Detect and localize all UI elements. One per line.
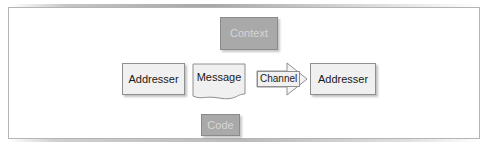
- node-context-label: Context: [230, 28, 268, 39]
- node-code-label: Code: [207, 120, 233, 131]
- node-addresser-right[interactable]: Addresser: [310, 63, 376, 95]
- node-addresser-right-label: Addresser: [318, 74, 368, 85]
- node-channel-label: Channel: [257, 71, 300, 88]
- node-message[interactable]: Message: [192, 63, 246, 103]
- node-channel[interactable]: Channel: [256, 61, 308, 97]
- document-shape-icon: [192, 63, 246, 103]
- node-addresser-left[interactable]: Addresser: [122, 63, 185, 95]
- diagram-canvas: Context Addresser Message Channel Addres…: [0, 0, 495, 148]
- node-message-label: Message: [197, 72, 242, 83]
- frame-bottom-shadow: [8, 139, 482, 142]
- node-context[interactable]: Context: [220, 17, 278, 50]
- node-code[interactable]: Code: [201, 114, 240, 136]
- diagram-frame: Context Addresser Message Channel Addres…: [8, 7, 480, 139]
- node-addresser-left-label: Addresser: [128, 74, 178, 85]
